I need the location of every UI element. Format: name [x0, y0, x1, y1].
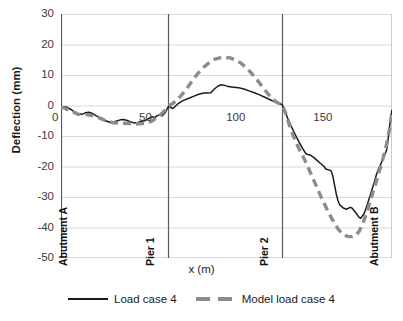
legend-label: Model load case 4 [242, 293, 335, 305]
x-tick-label-100: 100 [226, 112, 245, 124]
x-tick-label-0: 0 [52, 112, 58, 124]
y-tick-label--50: -50 [37, 252, 54, 264]
annotation-abutment-a: Abutment A [57, 207, 69, 266]
plot-area [61, 14, 392, 258]
y-tick-label--10: -10 [37, 130, 54, 142]
legend-label: Load case 4 [114, 293, 177, 305]
chart-legend: Load case 4Model load case 4 [0, 293, 403, 305]
y-tick-label--40: -40 [37, 222, 54, 234]
x-tick-label-50: 50 [139, 112, 152, 124]
x-tick-label-150: 150 [313, 112, 332, 124]
y-tick-label-10: 10 [41, 69, 54, 81]
legend-swatch-dashed-icon [196, 294, 236, 304]
legend-entry-model[interactable]: Model load case 4 [196, 293, 335, 305]
series-line-model [61, 57, 392, 236]
deflection-chart: 3020100-10-20-30-40-50 Deflection (mm) 0… [0, 0, 403, 321]
y-axis-title: Deflection (mm) [10, 45, 22, 175]
y-tick-label--20: -20 [37, 161, 54, 173]
y-tick-label-30: 30 [41, 8, 54, 20]
legend-entry-measured[interactable]: Load case 4 [68, 293, 177, 305]
y-tick-label-0: 0 [48, 100, 54, 112]
y-tick-label-20: 20 [41, 39, 54, 51]
y-tick-label--30: -30 [37, 191, 54, 203]
plot-canvas [61, 14, 392, 258]
annotation-abutment-b: Abutment B [368, 207, 380, 267]
annotation-pier-2: Pier 2 [258, 237, 270, 266]
legend-swatch-solid-icon [68, 294, 108, 304]
annotation-pier-1: Pier 1 [144, 237, 156, 266]
series-line-measured [61, 85, 392, 219]
